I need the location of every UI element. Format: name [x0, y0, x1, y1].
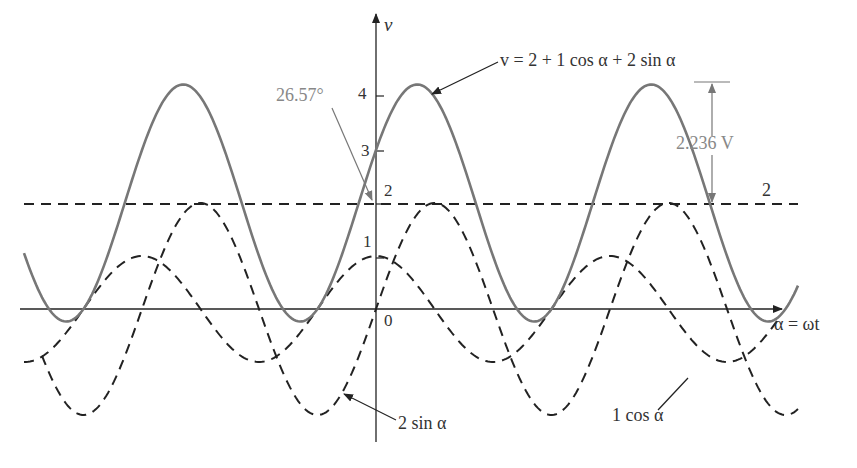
phase-angle-label: 26.57° [276, 85, 324, 106]
amplitude-label: 2.236 V [676, 133, 734, 154]
origin-label: 0 [384, 311, 393, 331]
sum-equation-label: v = 2 + 1 cos α + 2 sin α [500, 50, 675, 71]
x-axis-label: α = ωt [774, 314, 819, 335]
dc-level-label: 2 [762, 180, 771, 201]
y-ticks [376, 96, 384, 258]
waveform-plot [0, 0, 857, 468]
y-tick-4: 4 [358, 84, 367, 104]
sum-curve [24, 85, 798, 322]
y-tick-2: 2 [384, 181, 393, 201]
y-tick-3: 3 [361, 141, 370, 161]
sin-label: 2 sin α [398, 413, 446, 434]
y-tick-1: 1 [363, 232, 372, 252]
y-axis-label: v [384, 14, 392, 36]
cos-label: 1 cos α [612, 405, 663, 426]
